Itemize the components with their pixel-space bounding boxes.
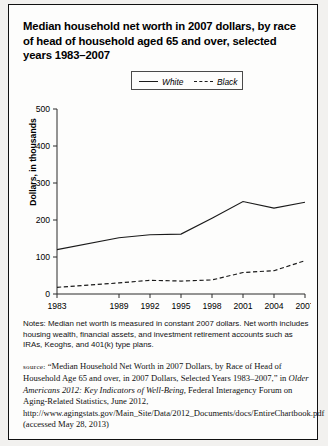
figure-frame: Median household net worth in 2007 dolla… [8,4,318,440]
chart-canvas: 0100200300400500 19831989199219951998200… [17,61,311,315]
svg-text:500: 500 [36,104,51,114]
chart-title: Median household net worth in 2007 dolla… [23,19,307,63]
svg-text:200: 200 [36,215,51,225]
plot-area: White Black Dollars, in thousands 010020… [17,61,311,315]
notes-text: Median net worth is measured in constant… [23,319,309,349]
source-part1: “Median Household Net Worth in 2007 Doll… [23,361,289,383]
svg-text:1992: 1992 [140,301,159,311]
svg-text:1989: 1989 [109,301,128,311]
series-line-white [57,202,305,250]
svg-text:2004: 2004 [264,301,283,311]
svg-text:0: 0 [45,289,50,299]
svg-text:2001: 2001 [233,301,252,311]
source-label: source: [23,363,46,371]
chart-notes: Notes: Median net worth is measured in c… [23,319,309,351]
svg-text:100: 100 [36,252,51,262]
svg-text:2007: 2007 [295,301,311,311]
chart-source: source: “Median Household Net Worth in 2… [23,361,309,430]
svg-text:1995: 1995 [171,301,190,311]
series-line-black [57,261,305,288]
svg-text:400: 400 [36,141,51,151]
x-axis-ticks: 19831989199219951998200120042007 [47,294,311,311]
svg-text:300: 300 [36,178,51,188]
y-axis-ticks: 0100200300400500 [36,104,57,299]
svg-text:1998: 1998 [202,301,221,311]
svg-text:1983: 1983 [47,301,66,311]
notes-label: Notes: [23,319,46,328]
